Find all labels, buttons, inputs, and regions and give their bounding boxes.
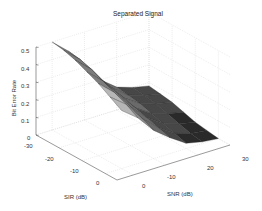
y-axis-label: SNR (dB) xyxy=(167,191,193,197)
z-tick-5: 0.5 xyxy=(21,48,29,54)
y-tick-0: 0 xyxy=(142,183,145,189)
x-axis-label: SIR (dB) xyxy=(64,194,87,200)
surface-mesh xyxy=(52,42,218,143)
z-tick-2: 0.2 xyxy=(21,101,29,107)
x-tick-1: -20 xyxy=(45,156,54,162)
z-axis-label: Bit Error Rate xyxy=(11,80,17,116)
z-tick-4: 0.4 xyxy=(21,66,29,72)
z-tick-1: 0.1 xyxy=(21,118,29,124)
surface-cell xyxy=(87,72,115,93)
x-tick-2: -10 xyxy=(70,168,79,174)
surface-cell xyxy=(75,60,103,81)
surface-cell xyxy=(64,50,92,69)
z-tick-3: 0.3 xyxy=(21,83,29,89)
z-tick-0: 0 xyxy=(27,135,30,141)
y-tick-3: 30 xyxy=(242,156,249,162)
x-tick-3: 0 xyxy=(96,180,99,186)
surface-cell xyxy=(52,42,80,59)
x-tick-0: -30 xyxy=(24,143,33,149)
chart-title: Separated Signal xyxy=(113,11,163,18)
y-tick-2: 20 xyxy=(207,165,214,171)
y-tick-1: -10 xyxy=(167,174,176,180)
surface-plot xyxy=(0,0,262,211)
